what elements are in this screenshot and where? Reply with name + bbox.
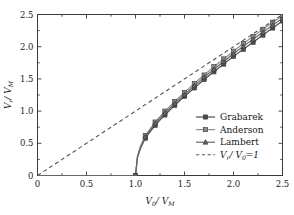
legend-label: Lambert [220, 137, 259, 147]
legend-marker [203, 115, 207, 119]
y-tick-label: 2.0 [20, 42, 34, 52]
legend-label: Vr/ V0=1 [220, 150, 259, 161]
x-tick-label: 2.0 [227, 179, 241, 189]
chart-background [0, 0, 294, 215]
chart-canvas: 00.51.01.52.02.5 00.51.01.52.02.5 V0/ VM… [0, 0, 294, 215]
y-tick-label: 1.0 [20, 106, 34, 116]
x-tick-label: 0.5 [80, 179, 94, 189]
chart-figure: 00.51.01.52.02.5 00.51.01.52.02.5 V0/ VM… [0, 0, 294, 215]
y-tick-label: 2.5 [20, 10, 34, 20]
y-tick-label: 1.5 [20, 74, 34, 84]
x-tick-label: 2.5 [276, 179, 290, 189]
x-tick-label: 1.0 [129, 179, 143, 189]
y-tick-label: 0.5 [20, 138, 34, 148]
y-tick-label: 0 [28, 171, 33, 181]
legend-label: Anderson [219, 125, 264, 135]
y-axis-title-sub2: M [7, 80, 14, 88]
legend-label: Grabarek [220, 112, 264, 122]
x-tick-label: 1.5 [178, 179, 192, 189]
x-axis-title-sub2: M [167, 200, 175, 207]
legend-marker [203, 128, 207, 132]
x-tick-label: 0 [35, 179, 40, 189]
